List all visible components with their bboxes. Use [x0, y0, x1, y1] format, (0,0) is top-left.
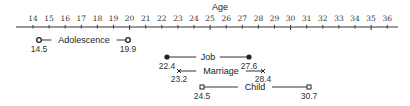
end-open-circle-icon	[126, 38, 131, 43]
tick-label: 26	[221, 14, 231, 23]
life-event-ranges: Adolescence14.519.9Job22.427.6Marriage23…	[31, 35, 318, 101]
tick-label: 16	[60, 14, 70, 23]
tick-label: 28	[254, 14, 264, 23]
tick-label: 34	[350, 14, 360, 23]
tick-label: 35	[366, 14, 376, 23]
range-label: Job	[201, 52, 216, 62]
start-value-label: 14.5	[31, 44, 48, 54]
tick-label: 18	[93, 14, 103, 23]
tick-label: 21	[141, 14, 151, 23]
tick-label: 33	[334, 14, 344, 23]
start-open-circle-icon	[37, 38, 42, 43]
range-label: Child	[245, 82, 266, 92]
range-label: Adolescence	[58, 35, 110, 45]
end-filled-circle-icon	[246, 54, 251, 59]
end-value-label: 19.9	[120, 44, 137, 54]
tick-label: 22	[157, 14, 167, 23]
tick-label: 36	[382, 14, 392, 23]
range-label: Marriage	[203, 66, 239, 76]
start-filled-circle-icon	[164, 54, 169, 59]
range-adolescence: Adolescence14.519.9	[31, 35, 137, 54]
tick-label: 32	[318, 14, 328, 23]
range-child: Child24.530.7	[194, 82, 318, 101]
start-open-square-icon	[200, 85, 204, 89]
end-value-label: 27.6	[241, 61, 258, 71]
tick-label: 17	[77, 14, 87, 23]
age-axis: 1415161718192021222324252627282930313233…	[16, 14, 398, 30]
tick-label: 14	[28, 14, 38, 23]
start-value-label: 22.4	[159, 61, 176, 71]
tick-label: 15	[44, 14, 54, 23]
start-value-label: 23.2	[171, 74, 188, 84]
tick-label: 25	[205, 14, 215, 23]
tick-label: 31	[302, 14, 312, 23]
axis-title: Age	[212, 2, 228, 12]
tick-label: 20	[125, 14, 135, 23]
tick-label: 30	[286, 14, 296, 23]
start-value-label: 24.5	[194, 91, 211, 101]
age-timeline-chart: 1415161718192021222324252627282930313233…	[0, 0, 410, 106]
tick-label: 24	[189, 14, 199, 23]
tick-label: 23	[173, 14, 183, 23]
tick-label: 29	[270, 14, 280, 23]
end-value-label: 30.7	[301, 91, 318, 101]
tick-label: 27	[238, 14, 248, 23]
tick-label: 19	[109, 14, 119, 23]
end-open-square-icon	[307, 85, 311, 89]
